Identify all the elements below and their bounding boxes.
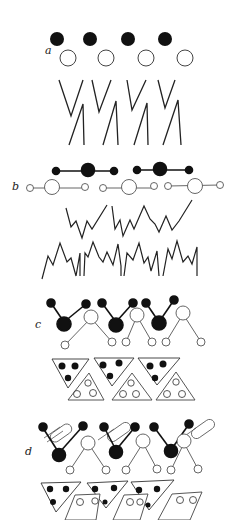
open-triangles <box>68 372 195 400</box>
filled-dumbbells <box>53 163 193 177</box>
panel-c <box>47 296 205 400</box>
open-dumbbells <box>27 179 224 195</box>
open-parallelograms-d <box>65 492 202 520</box>
panel-b <box>27 163 224 280</box>
filled-circles-row <box>50 32 172 46</box>
filled-triangles-d <box>41 480 174 512</box>
zigzag-chains-upper <box>66 200 192 238</box>
diagram-canvas <box>0 0 235 520</box>
open-v-molecules <box>61 306 205 349</box>
filled-v-molecules <box>47 296 178 332</box>
panel-a <box>50 32 193 145</box>
open-circles-row <box>60 50 193 66</box>
filled-triangles <box>52 358 180 388</box>
zigzag-chains-lower <box>42 241 197 279</box>
open-v-molecules-d <box>66 434 202 474</box>
panel-d <box>39 417 217 520</box>
